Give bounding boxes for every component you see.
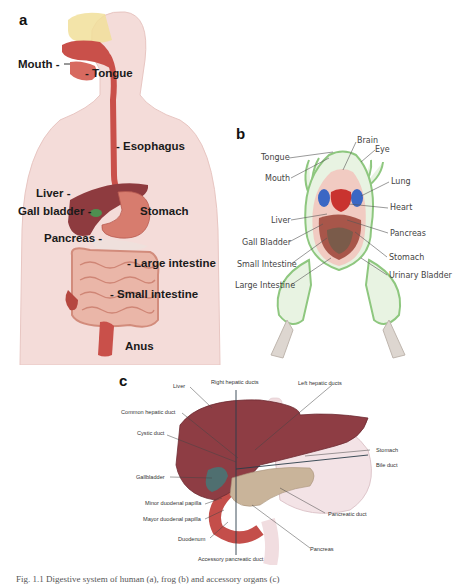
duct-label-minor-duodenal-papilla: Minor duodenal papilla: [145, 500, 201, 506]
duct-label-pancreas: Pancreas: [310, 546, 334, 552]
frog-label-liver: Liver: [271, 216, 291, 225]
panel-letter-a: a: [19, 11, 27, 28]
frog-label-stomach: Stomach: [389, 253, 424, 262]
liver-pancreas-illustration: [100, 370, 462, 565]
label-small-intestine: - Small intestine: [110, 288, 198, 300]
human-body-illustration: [0, 0, 231, 365]
frog-label-pancreas: Pancreas: [390, 229, 426, 238]
duct-label-duodenum: Duodenum: [178, 536, 205, 542]
label-liver: Liver -: [36, 187, 71, 199]
panel-c-liver-pancreas: c Liver Right hepatic ducts Left hepatic…: [100, 370, 462, 565]
duct-label-accessory-pancreatic-duct: Accessory pancreatic duct: [198, 556, 263, 562]
duct-label-stomach: Stomach: [376, 447, 398, 453]
label-esophagus: - Esophagus: [116, 140, 185, 152]
figure-caption: Fig. 1.1 Digestive system of human (a), …: [16, 574, 456, 584]
duct-label-left-hepatic-ducts: Left hepatic ducts: [298, 380, 342, 386]
duct-label-common-hepatic-duct: Common hepatic duct: [121, 409, 175, 415]
label-pancreas: Pancreas -: [44, 232, 102, 244]
duct-label-gallbladder: Gallbladder: [136, 474, 165, 480]
panel-a-human-digestive: a Mouth - - Tongue - Esophagus Liver - G…: [0, 0, 231, 365]
panel-letter-c: c: [119, 372, 127, 389]
duct-label-right-hepatic-ducts: Right hepatic ducts: [211, 379, 259, 385]
label-mouth: Mouth -: [18, 58, 60, 70]
label-large-intestine: - Large intestine: [127, 257, 216, 269]
label-tongue: - Tongue: [85, 67, 133, 79]
label-anus: Anus: [125, 340, 154, 352]
frog-label-gall-bladder: Gall Bladder: [242, 238, 291, 247]
panel-b-frog-anatomy: b Brain Eye Tongue Mouth Lung Heart Live…: [231, 120, 462, 370]
frog-label-urinary-bladder: Urinary Bladder: [389, 271, 452, 280]
frog-label-eye: Eye: [375, 145, 390, 154]
duct-label-cystic-duct: Cystic duct: [137, 430, 164, 436]
duct-label-pancreatic-duct: Pancreatic duct: [328, 511, 367, 517]
frog-label-small-intestine: Small Intestine: [237, 260, 297, 269]
label-stomach: Stomach: [140, 205, 189, 217]
frog-label-lung: Lung: [391, 177, 411, 186]
frog-label-heart: Heart: [390, 203, 412, 212]
duct-label-mayor-duodenal-papilla: Mayor duodenal papilla: [143, 516, 201, 522]
frog-label-large-intestine: Large Intestine: [235, 281, 295, 290]
frog-label-tongue: Tongue: [261, 153, 290, 162]
duct-label-bile-duct: Bile duct: [376, 462, 397, 468]
label-gall-bladder: Gall bladder -: [18, 205, 92, 217]
duct-label-liver: Liver: [173, 383, 185, 389]
frog-label-mouth: Mouth: [265, 174, 290, 183]
frog-label-brain: Brain: [357, 136, 378, 145]
